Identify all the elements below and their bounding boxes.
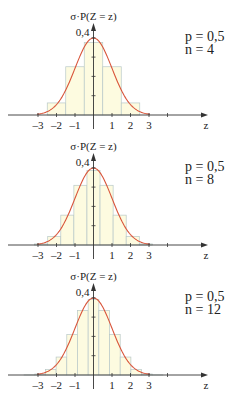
histogram-bar: [103, 67, 122, 115]
x-tick-label: 1: [109, 379, 115, 391]
x-axis-label: z: [204, 379, 209, 391]
parameter-box: p = 0,5n = 8: [185, 160, 224, 186]
param-n: n = 4: [185, 43, 224, 56]
histogram-bar: [110, 335, 121, 375]
x-tick-label: 2: [128, 379, 134, 391]
x-tick-label: –1: [69, 379, 81, 391]
y-axis-label: σ·P(Z = z): [70, 140, 117, 153]
y-axis-label: σ·P(Z = z): [70, 10, 117, 23]
histogram-bar: [99, 310, 110, 375]
y-axis-arrow-icon: [91, 23, 96, 31]
parameter-box: p = 0,5n = 12: [185, 290, 224, 316]
histogram-bar: [77, 310, 88, 375]
y-axis-label: σ·P(Z = z): [70, 270, 117, 283]
histogram-bar: [74, 185, 87, 245]
param-n: n = 12: [185, 303, 224, 316]
x-tick-label: –2: [50, 379, 62, 391]
binomial-chart-n12: –3–2–1123z0,4σ·P(Z = z)p = 0,5n = 12: [0, 260, 229, 391]
histogram-bar: [113, 215, 126, 245]
histogram-bar: [120, 357, 131, 375]
x-tick-label: 3: [146, 379, 152, 391]
histogram-bar: [66, 67, 85, 115]
y-tick-label: 0,4: [76, 26, 90, 38]
x-axis-arrow-icon: [201, 373, 208, 378]
param-n: n = 8: [185, 173, 224, 186]
histogram-bar: [67, 335, 78, 375]
binomial-chart-n4: –3–2–1123z0,4σ·P(Z = z)p = 0,5n = 4: [0, 0, 229, 131]
y-tick-label: 0,4: [76, 286, 90, 298]
histogram-bar: [56, 357, 67, 375]
histogram-bar: [61, 215, 74, 245]
histogram-bar: [100, 185, 113, 245]
x-axis-arrow-icon: [201, 113, 208, 118]
parameter-box: p = 0,5n = 4: [185, 30, 224, 56]
x-axis-arrow-icon: [201, 243, 208, 248]
x-tick-label: –3: [32, 379, 45, 391]
y-tick-label: 0,4: [76, 156, 90, 168]
y-axis-arrow-icon: [91, 153, 96, 161]
binomial-chart-n8: –3–2–1123z0,4σ·P(Z = z)p = 0,5n = 8: [0, 130, 229, 261]
y-axis-arrow-icon: [91, 283, 96, 291]
